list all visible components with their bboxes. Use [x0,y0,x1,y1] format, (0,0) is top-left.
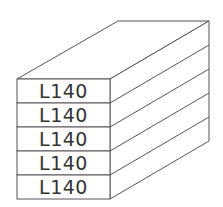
layer-4: L140 [17,151,110,175]
layer-5: L140 [17,175,110,199]
layer-label: L140 [39,80,88,102]
layer-label: L140 [39,128,88,150]
stacked-box-diagram: L140 L140 L140 L140 L140 [0,0,223,207]
layer-label: L140 [39,152,88,174]
layer-label: L140 [39,104,88,126]
layer-label: L140 [39,176,88,198]
layer-3: L140 [17,127,110,151]
layer-2: L140 [17,103,110,127]
layer-1: L140 [17,79,110,103]
